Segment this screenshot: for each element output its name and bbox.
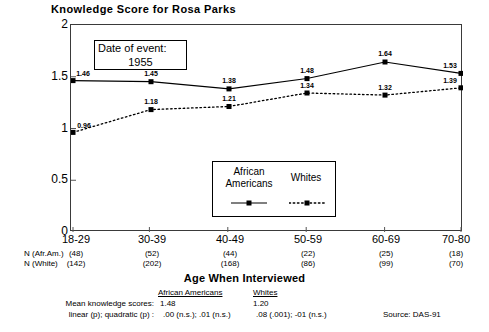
y-tick-label-2: 2 [42,18,68,30]
x-tick-label-3: 50-59 [294,233,322,246]
y-axis-ticks [71,77,76,181]
legend-label-african-americans: African Americans [218,166,280,190]
stats-row-label-trend: linear (p); quadratic (p) : [40,310,154,320]
x-axis: 18-29 30-39 40-49 50-59 60-69 70-80 [70,233,462,247]
stats-row-label-mean: Mean knowledge scores: [40,299,154,309]
point-label-white-5: 1.39 [443,77,457,85]
x-tick-label-0: 18-29 [62,233,90,246]
event-annotation-year: 1955 [95,55,186,69]
point-label-white-0: 0.96 [77,122,91,130]
stats-column-header-african-americans: African Americans [158,288,222,298]
point-label-white-1: 1.18 [144,98,158,106]
point-label-afram-4: 1.64 [378,50,392,58]
point-label-afram-2: 1.38 [222,77,236,85]
source-note: Source: DAS-91 [383,310,441,320]
y-tick-label-1: 1 [42,122,68,134]
y-tick-label-0_5: 0.5 [42,173,68,185]
legend-label-whites: Whites [279,172,333,184]
n-cell-white-5: (70) [449,258,463,269]
series-line-whites [73,88,461,133]
point-label-afram-0: 1.46 [76,70,90,78]
sample-size-table: N (Afr.Am.) (48) (52) (44) (22) (25) (18… [0,248,489,272]
x-tick-label-2: 40-49 [216,233,244,246]
point-label-white-4: 1.32 [378,84,392,92]
x-axis-ticks [73,227,461,232]
statistics-table: African Americans Whites Mean knowledge … [0,288,489,322]
x-axis-title: Age When Interviewed [0,272,489,284]
y-axis: 2 1.5 1 0.5 0 [38,24,68,231]
point-label-afram-1: 1.45 [144,70,158,78]
stats-mean-whites: 1.20 [253,299,269,309]
n-cell-white-2: (168) [221,258,240,269]
event-annotation-box: Date of event: 1955 [94,40,187,70]
point-label-afram-5: 1.53 [443,62,457,70]
n-row-whites: N (White) (142) (202) (168) (86) (99) (7… [0,258,489,269]
x-tick-label-1: 30-39 [138,233,166,246]
point-label-white-3: 1.34 [300,82,314,90]
stats-trend-african-americans: .00 (n.s.); .01 (n.s.) [163,310,231,320]
legend-swatch-african-americans [231,198,267,208]
n-cell-white-1: (202) [143,258,162,269]
point-label-white-2: 1.21 [222,95,236,103]
n-cell-white-3: (86) [301,258,315,269]
x-tick-label-4: 60-69 [372,233,400,246]
stats-column-header-whites: Whites [253,288,277,298]
legend-swatch-whites [289,198,325,208]
n-row-label-whites: N (White) [24,258,58,269]
n-cell-white-4: (99) [379,258,393,269]
page-title: Knowledge Score for Rosa Parks [51,3,236,15]
x-tick-label-5: 70-80 [442,233,470,246]
n-cell-white-0: (142) [67,258,86,269]
y-tick-label-1_5: 1.5 [42,70,68,82]
legend: African Americans Whites [212,161,336,217]
stats-mean-african-americans: 1.48 [160,299,176,309]
event-annotation-label: Date of event: [95,41,186,55]
point-label-afram-3: 1.48 [300,67,314,75]
stats-trend-whites: .08 (.001); -01 (n.s.) [256,310,327,320]
